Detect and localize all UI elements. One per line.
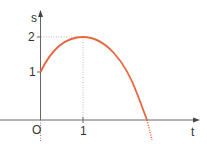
s-axis-label: s [31, 11, 37, 25]
chart: s 2 1 O 1 t [0, 0, 207, 152]
y-tick-label-1: 1 [29, 65, 36, 79]
t-axis-arrow-icon [193, 118, 200, 123]
origin-label: O [32, 123, 41, 137]
t-axis-label: t [191, 125, 195, 139]
x-tick-label-1: 1 [80, 124, 87, 138]
curve-extension [147, 120, 152, 140]
curve [41, 37, 148, 120]
y-tick-label-2: 2 [28, 30, 35, 44]
s-axis-arrow-icon [38, 10, 43, 17]
